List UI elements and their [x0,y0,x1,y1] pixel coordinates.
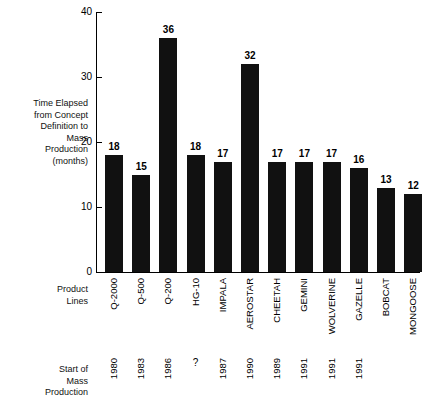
bar-column: 17 [295,12,313,272]
start-year-text: 1991 [300,358,310,379]
category-label: Q-200 [159,278,177,350]
start-year-text: 1986 [164,358,174,379]
start-year-label [404,358,422,404]
y-tick-label: 20 [81,137,92,147]
start-year-label: 1991 [323,358,341,404]
start-year-label: 1987 [214,358,232,404]
category-label-text: HG-10 [191,278,201,306]
category-label-text: CHEETAH [272,278,282,323]
category-label: Q-2000 [105,278,123,350]
category-label-text: MONGOOSE [408,278,418,335]
bar-column: 17 [268,12,286,272]
bar-column: 16 [350,12,368,272]
category-label-text: GEMINI [300,278,310,312]
bar-value-label: 12 [408,181,419,191]
start-year-label: 1991 [295,358,313,404]
bar [132,175,150,273]
start-year-text: 1987 [218,358,228,379]
bar [159,38,177,272]
start-year-text: 1990 [245,358,255,379]
start-year-text: 1980 [109,358,119,379]
bar-chart: Time Elapsed from Concept Definition to … [0,0,431,409]
y-tick-label: 30 [81,72,92,82]
start-year-label: 1983 [132,358,150,404]
start-of-mass-production-caption: Start of Mass Production [0,364,88,399]
bar [377,188,395,273]
bar [268,162,286,273]
category-label: AEROSTAR [241,278,259,350]
start-year-label: 1989 [268,358,286,404]
start-year-label: 1986 [159,358,177,404]
category-label: IMPALA [214,278,232,350]
y-tick-label: 10 [81,202,92,212]
category-label: CHEETAH [268,278,286,350]
bar-value-label: 17 [217,149,228,159]
bar [323,162,341,273]
category-label: GAZELLE [350,278,368,350]
category-label: MONGOOSE [404,278,422,350]
bar-column: 17 [323,12,341,272]
start-year-text: 1983 [136,358,146,379]
bar-value-label: 16 [353,155,364,165]
bar [214,162,232,273]
bar [295,162,313,273]
start-year-text: 1991 [327,358,337,379]
bar [404,194,422,272]
bar-column: 15 [132,12,150,272]
category-label: BOBCAT [377,278,395,350]
category-label-text: AEROSTAR [245,278,255,330]
bar [350,168,368,272]
bar-column: 32 [241,12,259,272]
bar-column: 17 [214,12,232,272]
bar-value-label: 17 [299,149,310,159]
category-label: Q-500 [132,278,150,350]
start-year-text: ? [193,358,199,368]
plot-area: 010203040 181536181732171717161312 [96,12,424,273]
start-year-label: 1980 [105,358,123,404]
bar-column: 13 [377,12,395,272]
product-lines-caption: Product Lines [0,284,88,307]
y-tick-label: 0 [86,267,92,277]
category-label-text: BOBCAT [381,278,391,316]
start-year-text: 1991 [354,358,364,379]
bar-value-label: 13 [380,175,391,185]
y-tick-label: 40 [81,7,92,17]
bar-value-label: 17 [272,149,283,159]
bar-column: 12 [404,12,422,272]
category-label-text: Q-2000 [109,278,119,310]
x-axis-category-labels: Q-2000Q-500Q-200HG-10IMPALAAEROSTARCHEET… [97,278,427,350]
category-label-text: WOLVERINE [327,278,337,334]
category-label: HG-10 [187,278,205,350]
bar-column: 18 [105,12,123,272]
category-label-text: Q-500 [136,278,146,304]
bar-value-label: 36 [163,25,174,35]
bar-value-label: 15 [136,162,147,172]
bar-value-label: 32 [244,51,255,61]
bar-column: 36 [159,12,177,272]
start-year-text: 1989 [272,358,282,379]
category-label-text: IMPALA [218,278,228,312]
bar-value-label: 17 [326,149,337,159]
category-label: GEMINI [295,278,313,350]
bar [241,64,259,272]
start-of-mass-production-values: 198019831986?198719901989199119911991 [97,358,427,404]
bar-column: 18 [187,12,205,272]
bar-series: 181536181732171717161312 [97,12,424,273]
category-label-text: Q-200 [164,278,174,304]
category-label-text: GAZELLE [354,278,364,321]
start-year-label: 1991 [350,358,368,404]
bar-value-label: 18 [108,142,119,152]
start-year-label: ? [187,358,205,404]
start-year-label [377,358,395,404]
bar [105,155,123,272]
bar [187,155,205,272]
bar-value-label: 18 [190,142,201,152]
y-axis-caption: Time Elapsed from Concept Definition to … [0,98,88,167]
start-year-label: 1990 [241,358,259,404]
category-label: WOLVERINE [323,278,341,350]
